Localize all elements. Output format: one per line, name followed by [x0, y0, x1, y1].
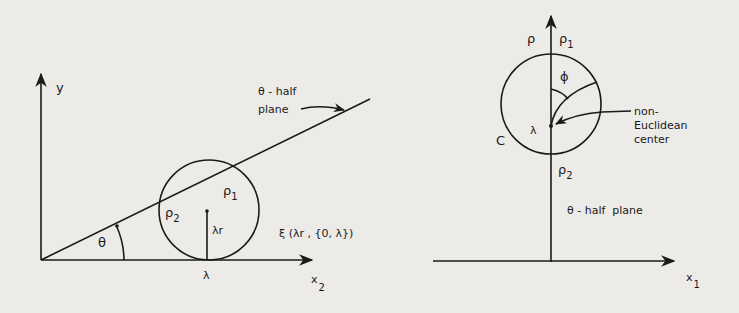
center-lambda-label: λ [530, 124, 537, 137]
radius-label: λr [212, 224, 224, 237]
figure-canvas: y x2 θ θ - half plane ρ1 [0, 0, 739, 313]
half-plane-label-line1: θ - half [258, 85, 297, 98]
tangent-point-label: λ [203, 269, 210, 282]
rho-axis-label: ρ [527, 31, 535, 46]
phi-label: ϕ [560, 69, 569, 84]
y-axis-label: y [56, 80, 64, 95]
half-plane-label-line2: plane [258, 103, 289, 116]
callout-label-line3: center [634, 133, 670, 146]
paper-background [0, 0, 739, 313]
callout-label-line1: non- [634, 105, 659, 118]
angle-arc-tip [115, 224, 119, 228]
callout-label-line2: Euclidean [634, 119, 688, 132]
circle-c-label: C [496, 133, 505, 148]
angle-theta-label: θ [98, 235, 106, 250]
non-euclidean-center-point [549, 124, 553, 128]
half-plane-label: θ - half plane [567, 204, 643, 217]
circle-xi-label: ξ (λr , {0, λ}) [279, 227, 353, 240]
circle-center-point [205, 209, 209, 213]
hyperbolic-geometry-figure: y x2 θ θ - half plane ρ1 [0, 0, 739, 313]
